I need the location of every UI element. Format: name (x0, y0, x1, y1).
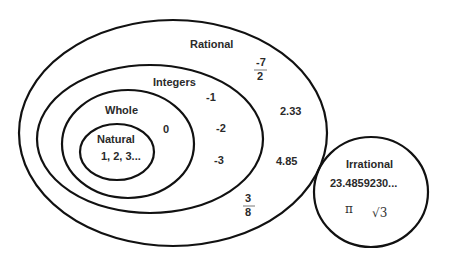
rational-example-4-85: 4.85 (276, 155, 297, 167)
whole-label: Whole (105, 104, 138, 116)
rational-label: Rational (190, 38, 233, 50)
fraction-denominator: 8 (245, 206, 251, 218)
fraction-three-eighths: 3 8 (243, 192, 255, 218)
whole-example-0: 0 (163, 123, 169, 135)
rational-example-2-33: 2.33 (280, 105, 301, 117)
integers-label: Integers (153, 76, 196, 88)
fraction-numerator: -7 (256, 56, 266, 68)
integer-example-neg2: -2 (216, 122, 226, 134)
integer-example-neg3: -3 (214, 154, 224, 166)
irrational-label: Irrational (346, 158, 393, 170)
natural-examples: 1, 2, 3... (101, 150, 141, 162)
fraction-denominator: 2 (257, 70, 263, 82)
irrational-set-boundary (314, 137, 428, 247)
pi-symbol: π (345, 202, 353, 216)
integer-example-neg1: -1 (206, 91, 216, 103)
sqrt-three-symbol: √3 (372, 206, 387, 220)
irrational-example-decimal: 23.4859230... (330, 177, 397, 189)
natural-label: Natural (97, 133, 135, 145)
fraction-numerator: 3 (245, 192, 251, 204)
fraction-neg-seven-halves: -7 2 (254, 56, 267, 82)
number-sets-venn-diagram: Rational -7 2 2.33 4.85 3 8 Integers -1 … (0, 0, 451, 260)
